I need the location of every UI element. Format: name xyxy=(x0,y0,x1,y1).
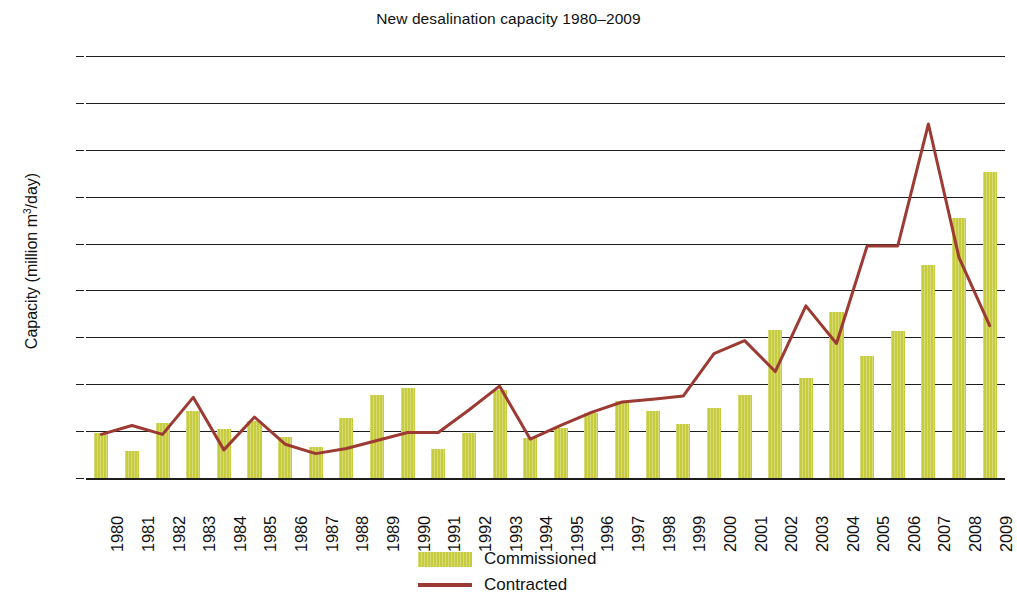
y-tick-mark-5 xyxy=(76,244,84,245)
legend-label-contracted: Contracted xyxy=(484,575,567,595)
y-axis-label-text: Capacity (million m3/day) xyxy=(23,173,40,349)
x-tick-label-1981: 1981 xyxy=(139,516,158,552)
y-tick-mark-9 xyxy=(76,56,84,57)
x-tick-label-2001: 2001 xyxy=(752,516,771,552)
chart-title: New desalination capacity 1980–2009 xyxy=(0,10,1017,28)
x-tick-label-1980: 1980 xyxy=(108,516,127,552)
y-tick-mark-0 xyxy=(76,478,84,479)
chart-legend: Commissioned Contracted xyxy=(418,546,738,598)
y-tick-mark-1 xyxy=(76,431,84,432)
x-tick-label-1983: 1983 xyxy=(200,516,219,552)
x-tick-label-2003: 2003 xyxy=(813,516,832,552)
y-tick-mark-3 xyxy=(76,337,84,338)
contracted-polyline xyxy=(101,124,989,454)
y-tick-mark-7 xyxy=(76,150,84,151)
x-tick-label-2008: 2008 xyxy=(966,516,985,552)
y-tick-mark-2 xyxy=(76,384,84,385)
legend-bar-swatch-icon xyxy=(418,552,472,567)
x-tick-label-2004: 2004 xyxy=(844,516,863,552)
legend-item-contracted: Contracted xyxy=(418,572,738,598)
legend-line-swatch-icon xyxy=(418,583,472,587)
x-tick-label-2009: 2009 xyxy=(997,516,1016,552)
chart-figure: New desalination capacity 1980–2009 Capa… xyxy=(0,0,1017,614)
y-axis-label: Capacity (million m3/day) xyxy=(23,61,41,461)
legend-item-commissioned: Commissioned xyxy=(418,546,738,572)
x-tick-label-2007: 2007 xyxy=(935,516,954,552)
x-tick-label-1982: 1982 xyxy=(170,516,189,552)
x-tick-label-1989: 1989 xyxy=(384,516,403,552)
x-tick-label-2006: 2006 xyxy=(905,516,924,552)
y-tick-mark-6 xyxy=(76,197,84,198)
line-series-contracted xyxy=(86,56,1005,478)
x-tick-label-1985: 1985 xyxy=(261,516,280,552)
gridline-0 xyxy=(86,478,1005,480)
x-tick-label-2005: 2005 xyxy=(874,516,893,552)
y-tick-mark-4 xyxy=(76,290,84,291)
plot-area: 0123456789 xyxy=(86,56,1005,478)
y-tick-mark-8 xyxy=(76,103,84,104)
x-tick-label-1986: 1986 xyxy=(292,516,311,552)
legend-label-commissioned: Commissioned xyxy=(484,549,596,569)
x-tick-label-1988: 1988 xyxy=(353,516,372,552)
x-tick-label-2002: 2002 xyxy=(782,516,801,552)
x-tick-label-1984: 1984 xyxy=(231,516,250,552)
x-tick-label-1987: 1987 xyxy=(323,516,342,552)
